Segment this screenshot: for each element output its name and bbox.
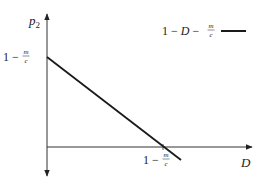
svg-text:m: m [208,22,213,30]
svg-text:c: c [164,160,168,168]
svg-text:m: m [163,151,168,159]
chart: p2 D 1 − m c 1 − m c 1 − D − m c [0,0,266,186]
svg-text:1 −: 1 − [3,50,19,64]
svg-text:1 −: 1 − [143,153,159,167]
series-line [47,57,181,160]
svg-text:1 − D −: 1 − D − [162,24,199,38]
y-tick-label: 1 − m c [3,48,30,65]
legend: 1 − D − m c [162,22,246,39]
y-axis-label: p2 [28,13,40,30]
x-tick-label: 1 − m c [143,151,170,168]
svg-text:m: m [23,48,28,56]
x-axis-label: D [240,155,251,170]
svg-text:c: c [209,31,213,39]
svg-text:c: c [24,57,28,65]
